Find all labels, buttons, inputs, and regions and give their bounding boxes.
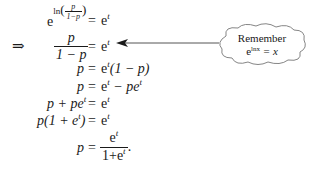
numerator: p: [54, 30, 88, 47]
exp-numerator: p: [65, 2, 82, 12]
period: .: [128, 139, 132, 154]
exponent: t: [107, 37, 110, 47]
callout-line-1: Remember: [216, 32, 308, 45]
equation-step-7: p = et1+et.: [0, 130, 311, 166]
exp-denominator: 1−p: [65, 12, 82, 21]
equals-sign: =: [88, 80, 96, 94]
callout-line-2: elnx = x: [216, 45, 308, 60]
step5-lhs: p + pet: [47, 97, 86, 112]
step3-rhs: et(1 − p): [101, 62, 150, 77]
arrow-left-icon: [115, 36, 220, 50]
step1-rhs: et: [101, 14, 110, 29]
equals-sign: =: [88, 62, 96, 76]
step4-rhs: et − pet: [101, 80, 142, 95]
step7-rhs: et1+et.: [100, 130, 131, 165]
step5-rhs: et: [101, 97, 110, 112]
callout-text: Remember elnx = x: [216, 32, 308, 60]
equals-sign: =: [88, 97, 96, 111]
step4-lhs: p: [77, 80, 84, 94]
denominator: 1+et: [100, 148, 128, 165]
step2-rhs: et: [101, 40, 110, 55]
equals-sign: =: [88, 114, 96, 128]
step6-lhs: p(1 + et): [37, 114, 86, 129]
step2-lhs: p1 − p: [54, 30, 88, 63]
equals-sign: =: [88, 141, 96, 155]
equals-sign: =: [88, 40, 96, 54]
step6-rhs: et: [101, 114, 110, 129]
equals-sign: =: [88, 14, 96, 28]
step3-lhs: p: [77, 62, 84, 76]
exponent: t: [107, 11, 110, 21]
step7-lhs: p: [77, 141, 84, 155]
